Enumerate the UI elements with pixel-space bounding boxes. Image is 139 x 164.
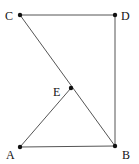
point-b — [113, 144, 117, 148]
point-e — [69, 86, 73, 90]
segment-cb — [20, 15, 115, 146]
point-c — [18, 13, 22, 17]
geometry-diagram: C D E A B — [0, 0, 139, 164]
point-a — [18, 145, 22, 149]
label-c: C — [5, 9, 13, 23]
segment-ab — [20, 146, 115, 147]
segment-ae — [20, 88, 71, 147]
segments — [20, 15, 115, 147]
label-a: A — [6, 148, 15, 162]
label-b: B — [122, 148, 130, 162]
point-d — [113, 13, 117, 17]
label-e: E — [53, 85, 60, 99]
label-d: D — [121, 9, 130, 23]
